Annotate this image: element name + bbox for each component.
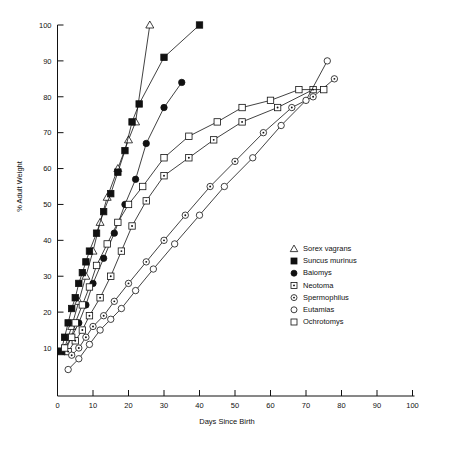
square-marker xyxy=(104,241,110,247)
x-axis-title: Days Since Birth xyxy=(199,417,254,426)
series-path xyxy=(72,79,335,355)
circle-marker xyxy=(86,341,92,347)
series-path xyxy=(65,90,324,348)
legend-item-sorex-vagrans: Sorex vagrans xyxy=(290,244,351,253)
filled-circle-marker xyxy=(179,79,185,85)
y-tick-label: 90 xyxy=(43,57,51,66)
circle-marker xyxy=(221,183,227,189)
marker-center-dot xyxy=(85,336,87,338)
marker-center-dot xyxy=(262,132,264,134)
legend-label: Spermophilus xyxy=(303,293,349,302)
filled-square-marker xyxy=(76,280,82,286)
circle-marker xyxy=(171,241,177,247)
legend-item-ochrotomys: Ochrotomys xyxy=(291,317,344,326)
filled-square-marker xyxy=(83,259,89,265)
legend-label: Ochrotomys xyxy=(303,317,344,326)
square-marker xyxy=(61,345,67,351)
legend-item-spermophilus: Spermophilus xyxy=(291,293,349,302)
legend-item-eutamias: Eutamias xyxy=(291,305,335,314)
square-marker xyxy=(79,302,85,308)
circle-marker xyxy=(132,287,138,293)
marker-center-dot xyxy=(293,284,295,286)
marker-center-dot xyxy=(103,315,105,317)
y-tick-label: 80 xyxy=(43,93,51,102)
y-tick-label: 100 xyxy=(39,21,52,30)
series-path xyxy=(68,90,313,352)
filled-circle-marker xyxy=(291,270,297,276)
y-tick-label: 70 xyxy=(43,128,51,137)
marker-center-dot xyxy=(120,250,122,252)
y-tick-label: 50 xyxy=(43,200,51,209)
axes: 1020304050607080901000102030405060708090… xyxy=(39,21,419,410)
legend: Sorex vagransSuncus murinusBaiomysNeotom… xyxy=(290,244,357,326)
circle-marker xyxy=(118,305,124,311)
square-marker xyxy=(115,219,121,225)
x-tick-label: 80 xyxy=(337,401,345,410)
square-marker xyxy=(239,104,245,110)
circle-marker xyxy=(250,155,256,161)
filled-square-marker xyxy=(93,230,99,236)
x-tick-label: 50 xyxy=(231,401,239,410)
filled-square-marker xyxy=(100,208,106,214)
marker-center-dot xyxy=(188,157,190,159)
y-axis-title: % Adult Weight xyxy=(15,160,24,212)
triangle-marker xyxy=(146,21,154,28)
marker-center-dot xyxy=(110,275,112,277)
x-tick-label: 40 xyxy=(195,401,203,410)
marker-center-dot xyxy=(213,139,215,141)
marker-center-dot xyxy=(99,297,101,299)
filled-circle-marker xyxy=(111,230,117,236)
series-spermophilus xyxy=(69,76,338,359)
marker-center-dot xyxy=(145,200,147,202)
filled-square-marker xyxy=(61,334,67,340)
marker-center-dot xyxy=(163,175,165,177)
growth-curve-figure: 1020304050607080901000102030405060708090… xyxy=(0,0,454,450)
square-marker xyxy=(267,97,273,103)
square-marker xyxy=(291,319,297,325)
filled-square-marker xyxy=(108,190,114,196)
marker-center-dot xyxy=(333,78,335,80)
y-tick-label: 30 xyxy=(43,272,51,281)
marker-center-dot xyxy=(92,326,94,328)
square-marker xyxy=(125,201,131,207)
marker-center-dot xyxy=(291,107,293,109)
x-tick-label: 0 xyxy=(55,401,59,410)
filled-circle-marker xyxy=(143,140,149,146)
circle-marker xyxy=(196,212,202,218)
marker-center-dot xyxy=(128,282,130,284)
legend-label: Neotoma xyxy=(303,281,334,290)
legend-item-baiomys: Baiomys xyxy=(291,268,332,277)
square-marker xyxy=(93,262,99,268)
circle-marker xyxy=(76,356,82,362)
marker-center-dot xyxy=(145,261,147,263)
marker-center-dot xyxy=(234,160,236,162)
legend-label: Sorex vagrans xyxy=(303,244,352,253)
marker-center-dot xyxy=(113,300,115,302)
legend-item-suncus-murinus: Suncus murinus xyxy=(291,256,357,265)
square-marker xyxy=(161,155,167,161)
x-tick-label: 30 xyxy=(160,401,168,410)
x-tick-label: 20 xyxy=(124,401,132,410)
x-tick-label: 90 xyxy=(373,401,381,410)
series-baiomys xyxy=(61,79,185,355)
marker-center-dot xyxy=(163,239,165,241)
circle-marker xyxy=(324,58,330,64)
legend-label: Baiomys xyxy=(303,268,332,277)
marker-center-dot xyxy=(78,347,80,349)
filled-square-marker xyxy=(129,119,135,125)
filled-square-marker xyxy=(136,101,142,107)
square-marker xyxy=(86,284,92,290)
filled-square-marker xyxy=(161,54,167,60)
marker-center-dot xyxy=(81,329,83,331)
marker-center-dot xyxy=(277,107,279,109)
chart-canvas: 1020304050607080901000102030405060708090… xyxy=(0,0,454,450)
marker-center-dot xyxy=(89,315,91,317)
y-tick-label: 20 xyxy=(43,308,51,317)
circle-marker xyxy=(303,97,309,103)
x-tick-label: 70 xyxy=(302,401,310,410)
marker-center-dot xyxy=(131,225,133,227)
x-tick-label: 10 xyxy=(89,401,97,410)
circle-marker xyxy=(278,122,284,128)
x-tick-label: 60 xyxy=(266,401,274,410)
filled-square-marker xyxy=(196,22,202,28)
